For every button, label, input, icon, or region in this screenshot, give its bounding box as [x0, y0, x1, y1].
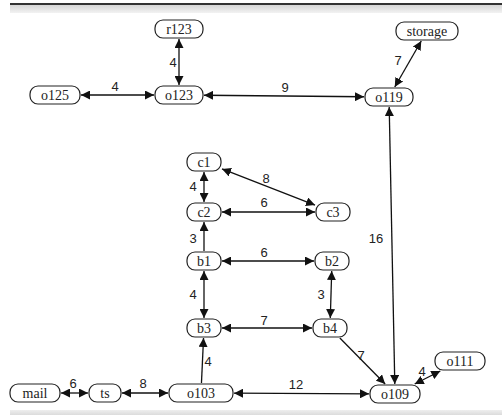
edge-o109-o119	[389, 107, 395, 384]
edge-weight-label: 8	[139, 376, 146, 391]
edge-weight-label: 8	[262, 171, 269, 186]
edge-o103-b3	[201, 338, 203, 383]
node-mail[interactable]: mail	[10, 384, 60, 402]
node-label: o119	[375, 90, 402, 105]
node-label: o109	[381, 387, 409, 402]
edge-weight-label: 4	[169, 55, 176, 70]
edge-weight-label: 6	[260, 195, 267, 210]
arrow-icon	[389, 107, 395, 384]
node-o103[interactable]: o103	[169, 384, 233, 402]
node-label: o111	[447, 354, 474, 369]
node-label: ts	[100, 386, 109, 401]
edge-weight-label: 12	[289, 377, 303, 392]
node-label: b1	[197, 254, 211, 269]
node-storage[interactable]: storage	[396, 22, 458, 40]
node-b3[interactable]: b3	[187, 319, 221, 337]
node-b4[interactable]: b4	[313, 319, 347, 337]
edge-weight-label: 9	[281, 80, 288, 95]
node-label: b4	[323, 321, 337, 336]
edge-weight-label: 6	[69, 376, 76, 391]
node-label: r123	[166, 22, 192, 37]
node-ts[interactable]: ts	[89, 384, 121, 402]
arrow-icon	[330, 271, 331, 318]
node-label: b2	[325, 254, 339, 269]
node-label: storage	[407, 24, 447, 39]
node-o119[interactable]: o119	[365, 88, 413, 106]
node-b2[interactable]: b2	[315, 252, 349, 270]
edge-o103-o109	[234, 393, 369, 394]
node-label: o103	[187, 386, 215, 401]
node-label: mail	[23, 386, 48, 401]
node-c2[interactable]: c2	[187, 203, 221, 221]
edge-weight-label: 4	[189, 179, 196, 194]
edge-weight-label: 7	[394, 53, 401, 68]
node-label: c3	[326, 205, 339, 220]
node-o125[interactable]: o125	[30, 86, 80, 104]
arrow-icon	[234, 393, 369, 394]
edge-weight-label: 4	[111, 79, 118, 94]
node-label: o123	[165, 88, 193, 103]
arrow-icon	[201, 338, 203, 383]
node-r123[interactable]: r123	[155, 20, 203, 38]
node-c3[interactable]: c3	[316, 203, 350, 221]
edge-weight-label: 4	[418, 364, 425, 379]
node-b1[interactable]: b1	[187, 252, 221, 270]
edge-weight-label: 7	[357, 348, 364, 363]
edge-weight-label: 3	[189, 231, 196, 246]
node-c1[interactable]: c1	[187, 153, 221, 171]
node-label: o125	[41, 88, 69, 103]
edge-b2-b4	[330, 271, 331, 318]
node-label: c2	[197, 205, 210, 220]
edge-o123-o119	[204, 95, 364, 97]
edge-weight-label: 4	[204, 354, 211, 369]
edge-weight-label: 16	[369, 231, 383, 246]
edge-weight-label: 4	[189, 287, 196, 302]
node-o123[interactable]: o123	[155, 86, 203, 104]
node-o109[interactable]: o109	[370, 385, 420, 403]
network-graph: r123storageo125o123o119c1c2c3b1b2b3b4mai…	[0, 0, 502, 415]
node-label: b3	[197, 321, 211, 336]
edge-weight-label: 7	[260, 313, 267, 328]
node-o111[interactable]: o111	[435, 352, 485, 370]
node-label: c1	[197, 155, 210, 170]
edge-weight-label: 6	[260, 245, 267, 260]
edge-weight-label: 3	[317, 287, 324, 302]
arrow-icon	[204, 95, 364, 97]
